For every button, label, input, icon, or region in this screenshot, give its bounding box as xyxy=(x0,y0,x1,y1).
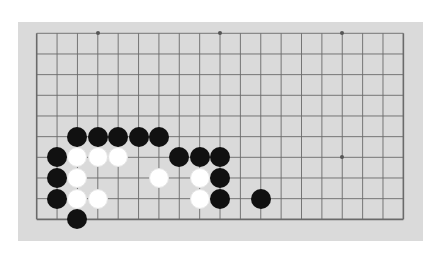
black-stone[interactable] xyxy=(47,168,67,188)
black-stone[interactable] xyxy=(190,147,210,167)
black-stone[interactable] xyxy=(210,168,230,188)
white-stone[interactable] xyxy=(88,147,108,167)
white-stone[interactable] xyxy=(88,189,108,209)
white-stone[interactable] xyxy=(190,168,210,188)
black-stone[interactable] xyxy=(129,127,149,147)
white-stone[interactable] xyxy=(67,189,87,209)
black-stone[interactable] xyxy=(108,127,128,147)
board-grid xyxy=(0,0,437,253)
black-stone[interactable] xyxy=(67,127,87,147)
white-stone[interactable] xyxy=(190,189,210,209)
black-stone[interactable] xyxy=(251,189,271,209)
black-stone[interactable] xyxy=(210,189,230,209)
black-stone[interactable] xyxy=(149,127,169,147)
white-stone[interactable] xyxy=(149,168,169,188)
black-stone[interactable] xyxy=(47,189,67,209)
black-stone[interactable] xyxy=(88,127,108,147)
